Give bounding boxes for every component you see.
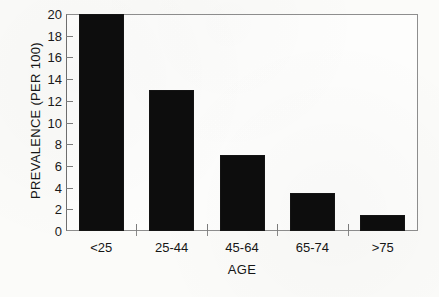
y-axis-tick <box>66 79 73 80</box>
y-axis-tick <box>66 188 73 189</box>
x-axis-tick <box>207 224 208 231</box>
bar-chart-figure: 02468101214161820 <2525-4445-6465-74>75 … <box>0 0 439 297</box>
x-axis-tick-outer <box>136 231 137 236</box>
y-axis-tick <box>66 57 73 58</box>
x-axis-title: AGE <box>66 262 418 277</box>
bar <box>290 193 335 231</box>
x-axis-tick <box>348 224 349 231</box>
x-axis-tick-outer <box>348 231 349 236</box>
bar <box>79 14 124 231</box>
plot-area <box>66 14 418 231</box>
y-axis-tick <box>66 144 73 145</box>
x-axis-tick <box>136 224 137 231</box>
x-axis-category-label: 25-44 <box>136 240 206 255</box>
x-axis-tick-outer <box>277 231 278 236</box>
bar <box>360 215 405 231</box>
y-axis-title: PREVALENCE (PER 100) <box>28 6 43 236</box>
y-axis-tick <box>66 209 73 210</box>
x-axis-category-label: <25 <box>66 240 136 255</box>
x-axis-category-label: 45-64 <box>207 240 277 255</box>
x-axis-category-label: >75 <box>348 240 418 255</box>
y-axis-tick <box>66 101 73 102</box>
x-axis-tick <box>277 224 278 231</box>
x-axis-category-labels: <2525-4445-6465-74>75 <box>66 240 418 258</box>
x-axis-category-label: 65-74 <box>277 240 347 255</box>
x-axis-ticks <box>66 231 418 237</box>
y-axis-tick <box>66 36 73 37</box>
bar <box>149 90 194 231</box>
y-axis-tick <box>66 166 73 167</box>
bar <box>220 155 265 231</box>
x-axis-tick-outer <box>207 231 208 236</box>
y-axis-tick <box>66 123 73 124</box>
